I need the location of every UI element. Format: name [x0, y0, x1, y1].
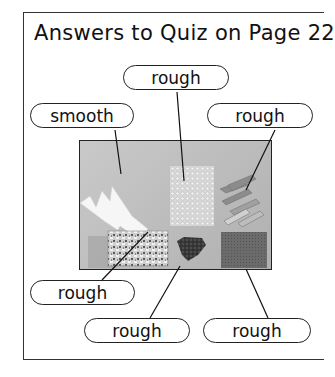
bubble-sheet — [170, 166, 214, 226]
label-bottom-right: rough — [203, 318, 311, 343]
label-text: rough — [112, 321, 161, 341]
label-text: rough — [151, 68, 200, 88]
label-text: rough — [232, 321, 281, 341]
label-top-center: rough — [123, 65, 229, 90]
clothes-pegs — [220, 175, 264, 227]
scouring-pad — [221, 232, 267, 268]
materials-illustration — [80, 141, 272, 270]
label-text: rough — [58, 283, 107, 303]
foil-block — [108, 231, 168, 266]
label-text: smooth — [50, 106, 114, 126]
materials-photo — [79, 140, 272, 270]
page-title: Answers to Quiz on Page 22 — [34, 21, 335, 45]
label-upper-right: rough — [207, 103, 313, 128]
gravel-pile — [177, 237, 206, 261]
label-lower-left: rough — [30, 280, 135, 305]
label-bottom-center: rough — [84, 318, 190, 343]
label-upper-left: smooth — [30, 103, 134, 128]
label-text: rough — [235, 106, 284, 126]
